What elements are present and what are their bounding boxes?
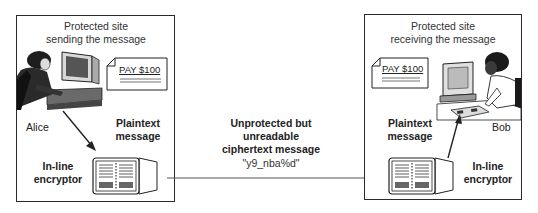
receiver-encryptor-label: In-line encryptor <box>458 160 518 186</box>
receiver-encryptor-line2: encryptor <box>458 173 518 186</box>
receiver-encryptor-line1: In-line <box>458 160 518 173</box>
receiver-encryptor-device-icon <box>387 156 457 198</box>
